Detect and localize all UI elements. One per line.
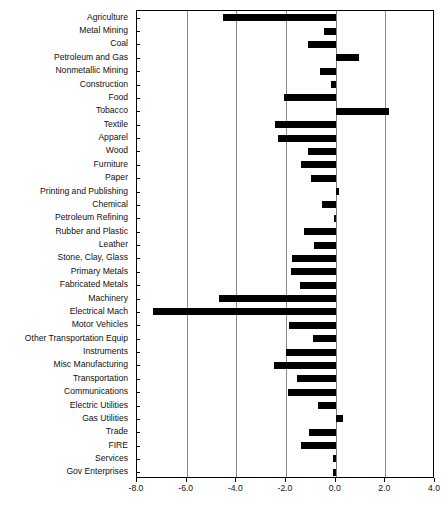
y-tick-14 bbox=[137, 205, 140, 206]
bar bbox=[318, 402, 336, 409]
y-axis-label: Petroleum Refining bbox=[55, 212, 128, 222]
y-axis-label: Rubber and Plastic bbox=[55, 226, 128, 236]
y-axis-label: Apparel bbox=[98, 132, 128, 142]
y-tick-1 bbox=[137, 31, 140, 32]
y-axis-label: Transportation bbox=[73, 373, 128, 383]
y-axis-label: Nonmetallic Mining bbox=[55, 65, 128, 75]
y-axis-label: Food bbox=[108, 92, 128, 102]
y-axis-label: Furniture bbox=[94, 159, 128, 169]
bar bbox=[286, 349, 336, 356]
y-tick-9 bbox=[137, 138, 140, 139]
x-tick-label: 2.0 bbox=[378, 483, 390, 493]
bar bbox=[336, 54, 359, 61]
bar bbox=[308, 148, 336, 155]
y-tick-31 bbox=[137, 432, 140, 433]
bar bbox=[301, 161, 336, 168]
bar bbox=[291, 268, 336, 275]
bar bbox=[333, 455, 336, 462]
y-tick-7 bbox=[137, 111, 140, 112]
y-axis-label: Trade bbox=[106, 426, 128, 436]
y-axis-label: Construction bbox=[80, 79, 128, 89]
y-tick-32 bbox=[137, 446, 140, 447]
bar bbox=[308, 41, 336, 48]
bar bbox=[288, 389, 336, 396]
y-tick-26 bbox=[137, 365, 140, 366]
bar bbox=[223, 14, 336, 21]
bar bbox=[278, 135, 336, 142]
bar bbox=[275, 121, 336, 128]
y-axis-label: Primary Metals bbox=[71, 266, 128, 276]
y-tick-21 bbox=[137, 299, 140, 300]
y-axis-label: Paper bbox=[105, 172, 128, 182]
y-tick-4 bbox=[137, 71, 140, 72]
y-axis-label: Petroleum and Gas bbox=[54, 52, 128, 62]
bar bbox=[304, 228, 336, 235]
y-axis-label: Metal Mining bbox=[79, 25, 128, 35]
y-tick-2 bbox=[137, 44, 140, 45]
y-axis-label: Instruments bbox=[83, 346, 128, 356]
bar bbox=[274, 362, 336, 369]
bar bbox=[336, 188, 340, 195]
y-axis-label: Other Transportation Equip bbox=[25, 333, 128, 343]
y-axis-label: Stone, Clay, Glass bbox=[57, 252, 128, 262]
bar bbox=[331, 81, 336, 88]
y-tick-3 bbox=[137, 58, 140, 59]
bar bbox=[284, 94, 336, 101]
y-axis-label: Gov Enterprises bbox=[66, 466, 128, 476]
y-tick-34 bbox=[137, 472, 140, 473]
y-axis-label: Fabricated Metals bbox=[60, 279, 128, 289]
zero-gridline bbox=[336, 11, 337, 477]
y-tick-5 bbox=[137, 85, 140, 86]
y-axis-label: Textile bbox=[104, 119, 128, 129]
bar bbox=[300, 282, 336, 289]
bar bbox=[320, 68, 336, 75]
y-axis-label: FIRE bbox=[108, 440, 128, 450]
bar bbox=[336, 415, 343, 422]
y-tick-6 bbox=[137, 98, 140, 99]
x-tick-2 bbox=[235, 478, 236, 482]
y-tick-17 bbox=[137, 245, 140, 246]
x-tick-label: -2.0 bbox=[278, 483, 293, 493]
y-tick-24 bbox=[137, 339, 140, 340]
y-axis-label: Motor Vehicles bbox=[72, 319, 128, 329]
y-tick-30 bbox=[137, 419, 140, 420]
gridline--2 bbox=[286, 11, 287, 477]
y-axis-category-labels: AgricultureMetal MiningCoalPetroleum and… bbox=[0, 10, 132, 478]
gridline-2 bbox=[385, 11, 386, 477]
y-tick-22 bbox=[137, 312, 140, 313]
y-axis-label: Agriculture bbox=[87, 12, 128, 22]
x-tick-6 bbox=[434, 478, 435, 482]
y-tick-15 bbox=[137, 218, 140, 219]
bar bbox=[292, 255, 336, 262]
y-tick-11 bbox=[137, 165, 140, 166]
bar bbox=[333, 469, 336, 476]
bar bbox=[289, 322, 336, 329]
y-axis-label: Wood bbox=[106, 145, 128, 155]
y-tick-23 bbox=[137, 325, 140, 326]
x-tick-5 bbox=[384, 478, 385, 482]
y-tick-18 bbox=[137, 258, 140, 259]
y-tick-0 bbox=[137, 18, 140, 19]
x-tick-4 bbox=[335, 478, 336, 482]
x-tick-1 bbox=[186, 478, 187, 482]
y-axis-label: Communications bbox=[64, 386, 128, 396]
y-tick-19 bbox=[137, 272, 140, 273]
y-axis-label: Leather bbox=[99, 239, 128, 249]
y-tick-20 bbox=[137, 285, 140, 286]
y-tick-33 bbox=[137, 459, 140, 460]
bar bbox=[153, 308, 335, 315]
y-axis-label: Services bbox=[95, 453, 128, 463]
y-tick-12 bbox=[137, 178, 140, 179]
bar bbox=[219, 295, 336, 302]
x-tick-label: -4.0 bbox=[228, 483, 243, 493]
x-axis: -8.0-6.0-4.0-2.00.02.04.0 bbox=[136, 478, 434, 510]
y-tick-13 bbox=[137, 192, 140, 193]
y-axis-label: Electric Utilities bbox=[70, 400, 128, 410]
y-axis-label: Misc Manufacturing bbox=[53, 359, 128, 369]
x-tick-label: 0.0 bbox=[329, 483, 341, 493]
bar bbox=[301, 442, 336, 449]
y-axis-label: Electrical Mach bbox=[70, 306, 128, 316]
y-tick-29 bbox=[137, 406, 140, 407]
bar bbox=[309, 429, 336, 436]
bar bbox=[297, 375, 336, 382]
